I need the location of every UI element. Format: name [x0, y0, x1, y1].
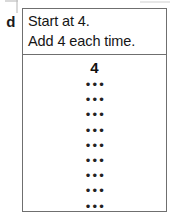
- instruction-header: Start at 4. Add 4 each time.: [23, 9, 166, 55]
- worksheet-pattern-item: d Start at 4. Add 4 each time. 4 ••• •••…: [0, 0, 175, 222]
- instruction-line-rule: Add 4 each time.: [28, 31, 166, 51]
- answer-blank-row[interactable]: •••: [23, 77, 166, 92]
- scan-artifact-corner-stem-icon: [16, 0, 18, 13]
- sequence-start-number: 4: [23, 59, 166, 77]
- answer-blank-row[interactable]: •••: [23, 92, 166, 107]
- scan-artifact-top-rule-icon: [140, 1, 170, 3]
- answer-blank-row[interactable]: •••: [23, 107, 166, 122]
- instruction-line-start: Start at 4.: [28, 11, 166, 31]
- answer-blank-row[interactable]: •••: [23, 123, 166, 138]
- answer-blank-row[interactable]: •••: [23, 199, 166, 214]
- answer-blank-row[interactable]: •••: [23, 168, 166, 183]
- answer-blank-row[interactable]: •••: [23, 153, 166, 168]
- pattern-box: Start at 4. Add 4 each time. 4 ••• ••• •…: [22, 8, 167, 212]
- answer-blank-row[interactable]: •••: [23, 183, 166, 198]
- sequence-answer-area[interactable]: 4 ••• ••• ••• ••• ••• ••• ••• ••• •••: [23, 55, 166, 214]
- answer-blank-row[interactable]: •••: [23, 138, 166, 153]
- item-label: d: [3, 14, 19, 30]
